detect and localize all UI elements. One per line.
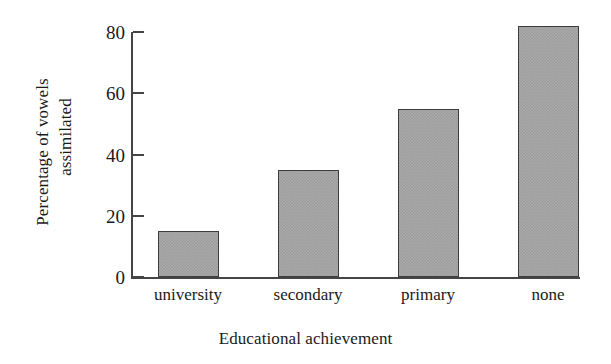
y-axis-tick-label: 60	[85, 84, 125, 103]
bar	[278, 170, 339, 277]
y-axis-tick-label: 80	[85, 23, 125, 42]
y-axis-tick-label: 20	[85, 206, 125, 225]
y-axis-tick-label: 40	[85, 145, 125, 164]
y-axis-tick-mark	[133, 31, 144, 33]
bar	[398, 109, 459, 277]
plot-area: 020406080 universitysecondaryprimarynone	[131, 32, 580, 277]
bar	[158, 231, 219, 277]
y-axis-tick-mark	[133, 215, 144, 217]
y-axis-tick-mark	[133, 154, 144, 156]
y-axis-tick-label: 0	[85, 268, 125, 287]
y-axis-tick-mark	[133, 276, 144, 278]
x-axis-category-label: university	[154, 285, 222, 305]
bar-chart-figure: Percentage of vowels assimilated 0204060…	[0, 0, 611, 364]
x-axis-line	[131, 277, 580, 279]
x-axis-category-label: none	[531, 285, 564, 305]
bar	[518, 26, 579, 277]
y-axis-tick-mark	[133, 92, 144, 94]
x-axis-category-label: secondary	[274, 285, 343, 305]
x-axis-category-label: primary	[401, 285, 455, 305]
x-axis-title: Educational achievement	[0, 328, 611, 349]
y-axis-title-line-1: Percentage of vowels	[31, 78, 54, 225]
y-axis-title-line-2: assimilated	[54, 98, 77, 206]
